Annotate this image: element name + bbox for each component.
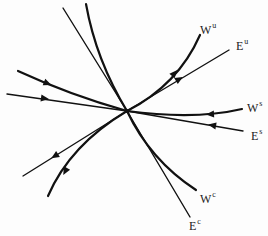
arrow-icon: [43, 79, 53, 88]
arrow-icon: [206, 111, 214, 118]
label-e-c: Ec: [189, 218, 201, 232]
label-e-s: Es: [251, 128, 262, 142]
arrow-icon: [41, 95, 50, 103]
stable-subspace-left-line: [7, 94, 127, 111]
arrow-icon: [49, 151, 59, 161]
label-w-u: Wu: [200, 22, 216, 36]
center-subspace-line: [127, 111, 190, 217]
center-manifold-curve: [127, 111, 196, 190]
stable-manifold-left-curve: [18, 71, 127, 111]
unstable-manifold-curve: [127, 35, 200, 111]
equilibrium-point: [125, 109, 129, 113]
label-w-c: Wc: [200, 191, 216, 205]
center-subspace-upper-line: [63, 8, 127, 111]
label-w-s: Ws: [247, 100, 262, 114]
manifold-diagram: Wu Eu Ws Es Wc Ec: [0, 0, 268, 236]
diagram-svg: [0, 0, 268, 236]
label-e-u: Eu: [236, 38, 248, 52]
center-manifold-upper-curve: [86, 4, 127, 111]
